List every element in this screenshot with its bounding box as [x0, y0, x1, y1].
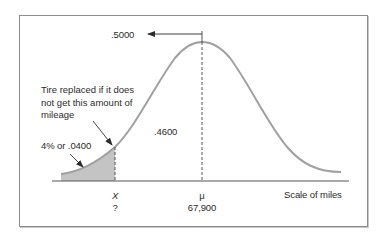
tail-probability-label: 4% or .0400 [41, 140, 91, 152]
middle-probability-label: .4600 [154, 126, 177, 138]
annotation-line-2: not get this amount of [41, 97, 151, 110]
mu-value: 67,900 [188, 202, 216, 214]
half-probability-label: .5000 [111, 29, 134, 41]
shaded-tail-area [61, 147, 115, 181]
mu-symbol: μ [199, 190, 204, 202]
annotation-line-3: mileage [41, 109, 151, 122]
tail-arrow [70, 154, 83, 167]
annotation-line-1: Tire replaced if it does [41, 84, 151, 97]
x-axis-label: Scale of miles [284, 189, 342, 201]
annotation-arrow [93, 121, 112, 145]
x-marker-symbol: X [112, 190, 118, 202]
replacement-annotation: Tire replaced if it does not get this am… [41, 84, 151, 122]
x-marker-value: ? [112, 202, 117, 214]
